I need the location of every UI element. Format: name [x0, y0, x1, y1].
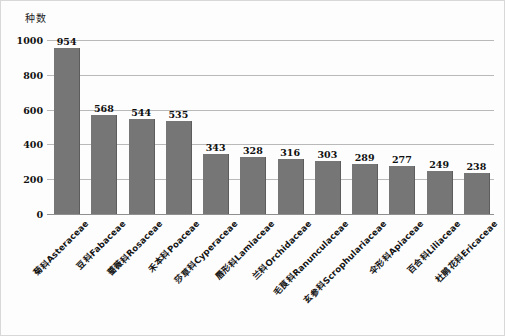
bar-group[interactable]: 277	[389, 166, 414, 214]
y-axis-title: 种数	[25, 10, 46, 25]
x-axis-category-labels: 菊科Asteraceae豆科Fabaceae蔷薇科Rosaceae禾本科Poac…	[47, 215, 494, 333]
y-axis-tick-label: 400	[9, 139, 43, 150]
bar[interactable]	[389, 166, 415, 214]
y-axis-tick-label: 600	[9, 104, 43, 115]
bar-value-label: 238	[466, 161, 486, 172]
bar[interactable]	[278, 159, 304, 214]
bar-value-label: 954	[57, 36, 77, 47]
bar[interactable]	[203, 154, 229, 214]
bar[interactable]	[315, 161, 341, 214]
bar-group[interactable]: 249	[427, 171, 452, 214]
bar-group[interactable]: 289	[352, 164, 377, 214]
bar[interactable]	[464, 173, 490, 214]
bar-group[interactable]: 343	[203, 154, 228, 214]
bar-value-label: 535	[168, 109, 188, 120]
bar-value-label: 316	[280, 147, 300, 158]
y-axis-tick-label: 0	[9, 209, 43, 220]
y-axis-tick-label: 1000	[9, 35, 43, 46]
y-axis-tick-labels: 10008006004002000	[1, 40, 43, 214]
bar[interactable]	[427, 171, 453, 214]
bar-group[interactable]: 544	[129, 119, 154, 214]
bar-group[interactable]: 328	[240, 157, 265, 214]
bar-group[interactable]: 954	[54, 48, 79, 214]
y-axis-tick-label: 800	[9, 69, 43, 80]
bar-group[interactable]: 316	[278, 159, 303, 214]
bar-value-label: 568	[94, 103, 114, 114]
bar[interactable]	[129, 119, 155, 214]
bar-group[interactable]: 535	[166, 121, 191, 214]
bar-group[interactable]: 568	[91, 115, 116, 214]
bar[interactable]	[91, 115, 117, 214]
bar-series: 954568544535343328316303289277249238	[47, 40, 494, 214]
bar-value-label: 328	[243, 145, 263, 156]
bar-value-label: 289	[355, 152, 375, 163]
bar-value-label: 303	[317, 149, 337, 160]
chart-screenshot: 种数 10008006004002000 9545685445353433283…	[0, 0, 505, 336]
bar[interactable]	[166, 121, 192, 214]
bar-value-label: 277	[392, 154, 412, 165]
bar[interactable]	[54, 48, 80, 214]
bar-group[interactable]: 303	[315, 161, 340, 214]
bar[interactable]	[240, 157, 266, 214]
bar-group[interactable]: 238	[464, 173, 489, 214]
bar-value-label: 249	[429, 159, 449, 170]
y-axis-tick-label: 200	[9, 174, 43, 185]
bar-value-label: 544	[131, 107, 151, 118]
bar[interactable]	[352, 164, 378, 214]
bar-value-label: 343	[206, 142, 226, 153]
